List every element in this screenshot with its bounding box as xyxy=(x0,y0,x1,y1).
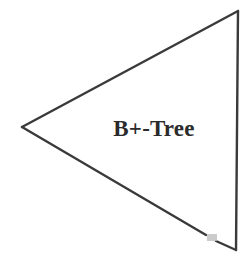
triangle-top-edge xyxy=(22,11,238,127)
triangle-bottom-edge-tail xyxy=(216,241,236,250)
triangle-right-edge xyxy=(236,11,238,250)
triangle-bottom-edge-main xyxy=(22,127,206,235)
b-plus-tree-label: B+-Tree xyxy=(113,117,194,140)
figure-canvas: B+-Tree xyxy=(0,0,251,268)
scan-gap-smudge xyxy=(207,234,217,241)
